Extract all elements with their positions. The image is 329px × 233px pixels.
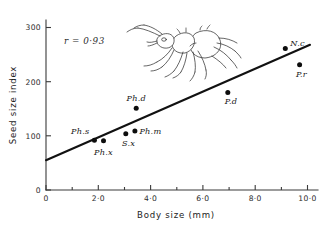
y-tick-label: 200	[25, 78, 41, 87]
data-point-label: N.c	[289, 38, 305, 48]
y-tick-label: 300	[25, 23, 41, 32]
scatter-figure: 0 100 200 300 0 2·0 4·0 6·0 8·0 10·0	[0, 0, 329, 233]
chart-canvas: 0 100 200 300 0 2·0 4·0 6·0 8·0 10·0	[0, 0, 329, 233]
x-tick-label: 2·0	[92, 194, 105, 203]
correlation-annotation: r = 0·93	[64, 36, 105, 46]
y-axis-tick-labels: 0 100 200 300	[25, 23, 41, 195]
y-axis-title: Seed size index	[8, 66, 18, 144]
data-point-label: P.r	[295, 69, 308, 79]
y-tick-label: 0	[36, 186, 41, 195]
ant-illustration-icon	[127, 25, 241, 81]
regression-line	[46, 45, 310, 160]
data-point	[92, 138, 97, 143]
data-point	[123, 131, 128, 136]
x-tick-label: 6·0	[196, 194, 209, 203]
data-point-label: S.x	[122, 138, 135, 148]
data-point-label: Ph.m	[138, 126, 161, 136]
x-axis-title: Body size (mm)	[137, 210, 215, 220]
y-axis-ticks	[46, 28, 51, 191]
data-point-label: Ph.d	[125, 93, 145, 103]
data-point	[283, 46, 288, 51]
x-tick-label: 4·0	[144, 194, 157, 203]
x-tick-label: 0	[43, 194, 48, 203]
x-tick-label: 8·0	[249, 194, 262, 203]
data-point	[134, 106, 139, 111]
y-tick-label: 100	[25, 132, 41, 141]
x-tick-label: 10·0	[298, 194, 316, 203]
data-point-label: Ph.x	[93, 147, 113, 157]
data-point	[297, 62, 302, 67]
x-axis-ticks	[46, 185, 308, 190]
data-point-label: Ph.s	[70, 126, 89, 136]
x-axis-tick-labels: 0 2·0 4·0 6·0 8·0 10·0	[43, 194, 316, 203]
data-point-label: P.d	[224, 96, 237, 106]
data-point	[132, 129, 137, 134]
data-point	[101, 138, 106, 143]
data-point	[225, 90, 230, 95]
